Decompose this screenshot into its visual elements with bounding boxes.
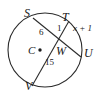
segment-measure-tw: 1 [57, 24, 62, 33]
point-label-s: S [24, 7, 30, 19]
segment-measure-wv: 15 [45, 58, 54, 67]
point-label-t: T [62, 11, 69, 23]
segment-measure-wu: x + 1 [73, 24, 92, 33]
point-label-u: U [84, 47, 93, 59]
geometry-figure: S T U V W C 6 1 15 x + 1 [0, 0, 104, 98]
center-dot [38, 48, 41, 51]
point-label-v: V [25, 80, 32, 92]
center-label-c: C [28, 45, 35, 56]
point-label-w: W [56, 45, 66, 57]
segment-measure-sw: 6 [39, 28, 44, 37]
circle-outline [8, 13, 82, 87]
